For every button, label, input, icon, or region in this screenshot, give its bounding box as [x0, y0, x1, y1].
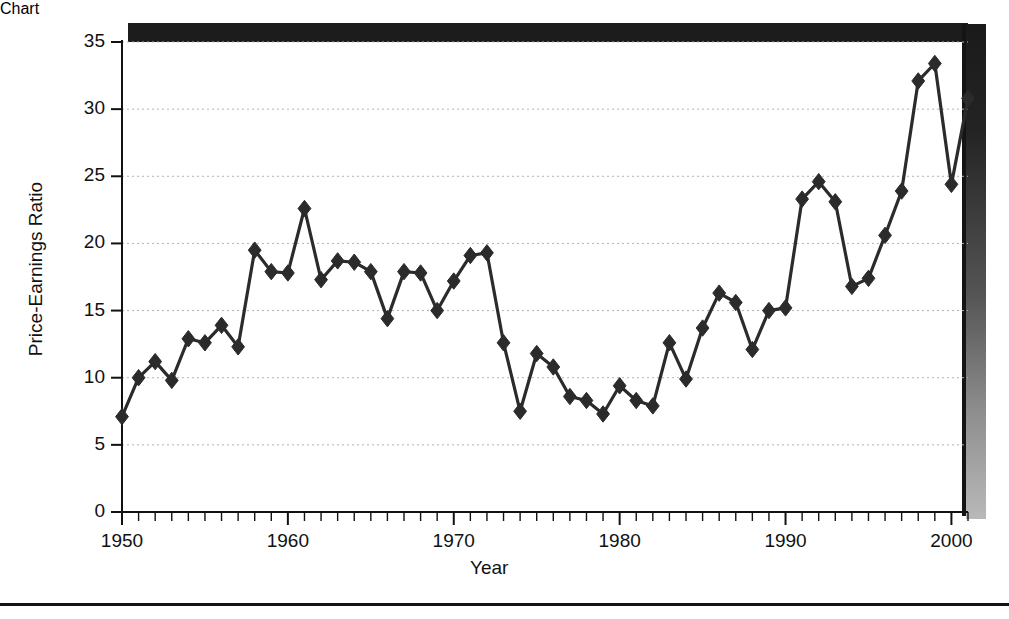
data-point-marker [895, 183, 908, 199]
axes-group [120, 40, 968, 513]
x-tick-label-1970: 1970 [419, 530, 489, 552]
x-tick-label-2000: 2000 [916, 530, 986, 552]
y-axis-title: Price-Earnings Ratio [25, 159, 47, 379]
data-point-marker [381, 310, 394, 326]
data-point-marker [729, 294, 742, 310]
gridlines-group [122, 42, 968, 445]
y-tick-marks-group [111, 42, 122, 512]
line-chart [0, 0, 1009, 619]
data-point-marker [182, 331, 195, 347]
y-tick-label-20: 20 [61, 231, 105, 253]
data-point-marker [680, 371, 693, 387]
y-tick-label-10: 10 [61, 366, 105, 388]
data-point-marker [514, 403, 527, 419]
data-point-marker [530, 345, 543, 361]
data-point-marker [580, 392, 593, 408]
data-point-marker [348, 254, 361, 270]
data-point-marker [646, 398, 659, 414]
data-series-markers-group [116, 55, 975, 425]
y-tick-label-15: 15 [61, 299, 105, 321]
x-axis-title: Year [470, 557, 508, 579]
data-point-marker [298, 200, 311, 216]
data-series-line-group [122, 63, 968, 416]
y-tick-label-0: 0 [61, 500, 105, 522]
y-tick-label-30: 30 [61, 97, 105, 119]
data-point-marker [414, 265, 427, 281]
data-point-marker [962, 90, 975, 106]
data-point-marker [945, 176, 958, 192]
data-point-marker [862, 270, 875, 286]
y-tick-label-25: 25 [61, 164, 105, 186]
data-point-marker [879, 227, 892, 243]
x-tick-label-1950: 1950 [87, 530, 157, 552]
y-tick-label-35: 35 [61, 30, 105, 52]
data-point-marker [398, 263, 411, 279]
x-tick-label-1980: 1980 [585, 530, 655, 552]
series-polyline [122, 63, 968, 416]
data-point-marker [281, 265, 294, 281]
data-point-marker [746, 341, 759, 357]
data-point-marker [481, 245, 494, 261]
x-tick-label-1990: 1990 [751, 530, 821, 552]
data-point-marker [497, 335, 510, 351]
data-point-marker [663, 335, 676, 351]
data-point-marker [116, 408, 129, 424]
x-tick-label-1960: 1960 [253, 530, 323, 552]
figure-panel: Price-Earnings Ratio Year 05101520253035… [0, 0, 1009, 619]
data-point-marker [779, 300, 792, 316]
data-point-marker [845, 278, 858, 294]
data-point-marker [763, 302, 776, 318]
data-point-marker [364, 263, 377, 279]
x-tick-marks-group [122, 512, 968, 525]
y-tick-label-5: 5 [61, 433, 105, 455]
